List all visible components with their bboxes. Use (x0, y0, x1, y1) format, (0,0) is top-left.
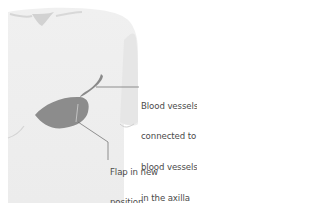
label-line: Blood vessels (141, 101, 197, 111)
label-flap-position: Flap in new position (110, 146, 158, 203)
label-line: connected to (141, 131, 197, 141)
label-line: position (110, 197, 158, 203)
label-line: Flap in new (110, 167, 158, 177)
